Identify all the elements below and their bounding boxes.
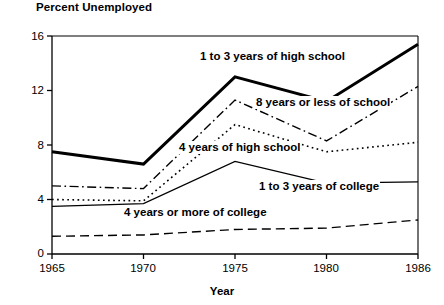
unemployment-line-chart: Percent Unemployed 16 12 8 4 0 1965 1970… xyxy=(0,0,444,305)
series-label-1-to-3-years-college: 1 to 3 years of college xyxy=(258,180,380,193)
x-tick-label-1986: 1986 xyxy=(388,262,444,274)
y-axis-title: Percent Unemployed xyxy=(36,1,152,13)
x-tick-label-1980: 1980 xyxy=(296,262,356,274)
y-tick-label-0: 0 xyxy=(14,247,44,259)
x-axis-title: Year xyxy=(0,285,444,297)
x-tick-label-1975: 1975 xyxy=(205,262,265,274)
x-axis-ticks xyxy=(52,254,418,259)
series-label-4-years-or-more-college: 4 years or more of college xyxy=(123,206,268,219)
y-tick-label-8: 8 xyxy=(14,139,44,151)
y-tick-label-16: 16 xyxy=(14,30,44,42)
series-line xyxy=(52,220,418,236)
x-tick-label-1965: 1965 xyxy=(22,262,82,274)
series-label-4-years-high-school: 4 years of high school xyxy=(178,141,301,154)
x-tick-label-1970: 1970 xyxy=(113,262,173,274)
y-tick-label-4: 4 xyxy=(14,193,44,205)
y-tick-label-12: 12 xyxy=(14,84,44,96)
series-label-8-years-or-less-of-school: 8 years or less of school xyxy=(255,96,391,109)
y-axis-ticks xyxy=(47,36,52,254)
series-label-1-to-3-years-high-school: 1 to 3 years of high school xyxy=(199,50,346,63)
